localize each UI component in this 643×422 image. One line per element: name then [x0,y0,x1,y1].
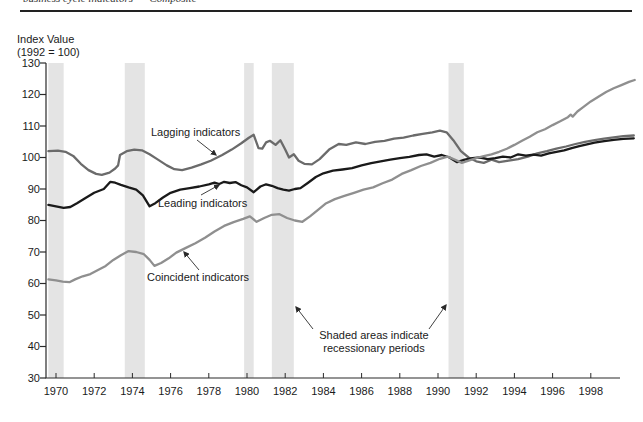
chart-canvas [0,0,643,422]
x-tick-label: 1996 [535,385,571,397]
recession-note-arrow-right [429,305,446,329]
recession-band [244,63,254,378]
recession-note: Shaded areas indicate recessionary perio… [298,329,450,355]
coincident-series-label: Coincident indicators [147,271,249,283]
y-tick-label: 90 [8,183,40,195]
chart-page: business cycle indicators Composite Inde… [0,0,643,422]
recession-band [48,63,63,378]
x-tick-label: 1990 [420,385,456,397]
x-tick-label: 1980 [229,385,265,397]
x-tick-label: 1972 [76,385,112,397]
x-tick-label: 1988 [382,385,418,397]
coincident-label-arrow [184,252,199,270]
recession-note-line2: recessionary periods [298,342,450,355]
x-tick-label: 1986 [344,385,380,397]
x-tick-label: 1982 [267,385,303,397]
y-tick-label: 130 [8,57,40,69]
x-tick-label: 1984 [305,385,341,397]
y-tick-label: 100 [8,151,40,163]
x-tick-label: 1994 [496,385,532,397]
recession-band [272,63,294,378]
y-tick-label: 30 [8,372,40,384]
x-tick-label: 1978 [191,385,227,397]
recession-note-line1: Shaded areas indicate [298,329,450,342]
x-tick-label: 1976 [153,385,189,397]
x-tick-label: 1970 [38,385,74,397]
recession-note-arrow-left [296,307,313,329]
y-tick-label: 110 [8,120,40,132]
x-tick-label: 1974 [114,385,150,397]
y-tick-label: 50 [8,309,40,321]
y-tick-label: 40 [8,340,40,352]
recession-band [449,63,464,378]
lagging-label-arrow [197,140,216,155]
leading-series-label: Leading indicators [158,197,247,209]
y-tick-label: 70 [8,246,40,258]
lagging-series-label: Lagging indicators [151,126,240,138]
y-tick-label: 120 [8,88,40,100]
x-tick-label: 1998 [573,385,609,397]
y-tick-label: 80 [8,214,40,226]
y-tick-label: 60 [8,277,40,289]
x-tick-label: 1992 [458,385,494,397]
recession-band [125,63,145,378]
